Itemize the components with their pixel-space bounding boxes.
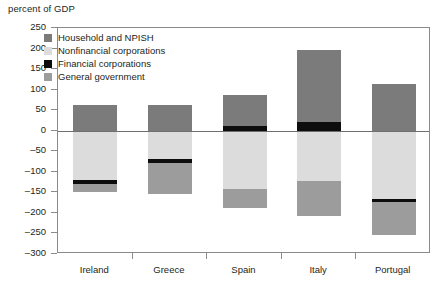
y-axis-tick-label: 100 — [30, 82, 46, 96]
bar-segment[interactable] — [297, 122, 341, 131]
y-axis-tick-label: –250 — [25, 225, 46, 239]
bar-group[interactable] — [223, 28, 267, 252]
bar-segment[interactable] — [223, 189, 267, 207]
zero-line — [58, 131, 429, 132]
x-axis-tick-mark — [206, 253, 207, 259]
bar-segment[interactable] — [73, 184, 117, 192]
x-axis-tick-mark — [132, 253, 133, 259]
x-axis-label-spain: Spain — [231, 264, 255, 275]
x-axis: IrelandGreeceSpainItalyPortugal — [57, 253, 430, 287]
legend-item[interactable]: Financial corporations — [44, 57, 165, 70]
y-axis-tick-label: –300 — [25, 246, 46, 260]
bar-segment[interactable] — [148, 163, 192, 194]
legend-item-label: Nonfinancial corporations — [58, 44, 165, 57]
bar-group[interactable] — [372, 28, 416, 252]
legend-item-label: Financial corporations — [58, 57, 151, 70]
y-axis-tick-label: –200 — [25, 205, 46, 219]
legend-item-label: General government — [58, 70, 145, 83]
bar-segment[interactable] — [297, 131, 341, 182]
bar-segment[interactable] — [73, 105, 117, 131]
x-axis-label-greece: Greece — [153, 264, 184, 275]
legend-item[interactable]: Nonfinancial corporations — [44, 44, 165, 57]
chart-root: percent of GDP 250200150100500–50–100–15… — [0, 0, 438, 288]
legend-swatch-icon — [44, 47, 52, 55]
y-axis-tick-label: –100 — [25, 164, 46, 178]
legend-item-label: Household and NPISH — [58, 31, 154, 44]
legend-swatch-icon — [44, 60, 52, 68]
bar-segment[interactable] — [73, 131, 117, 180]
bar-segment[interactable] — [148, 131, 192, 160]
x-axis-tick-mark — [281, 253, 282, 259]
bar-segment[interactable] — [297, 50, 341, 122]
x-axis-label-ireland: Ireland — [80, 264, 109, 275]
bar-group[interactable] — [297, 28, 341, 252]
chart-legend: Household and NPISHNonfinancial corporat… — [44, 31, 165, 83]
y-axis-title: percent of GDP — [8, 3, 75, 14]
y-axis-tick-label: –50 — [30, 143, 46, 157]
legend-swatch-icon — [44, 73, 52, 81]
bar-segment[interactable] — [148, 105, 192, 131]
bar-segment[interactable] — [372, 202, 416, 235]
legend-item[interactable]: Household and NPISH — [44, 31, 165, 44]
bar-segment[interactable] — [372, 84, 416, 130]
legend-item[interactable]: General government — [44, 70, 165, 83]
y-axis-tick-label: 0 — [41, 123, 46, 137]
bar-segment[interactable] — [297, 181, 341, 216]
bar-segment[interactable] — [223, 95, 267, 126]
y-axis-tick-label: 50 — [35, 102, 46, 116]
x-axis-label-italy: Italy — [309, 264, 326, 275]
x-axis-label-portugal: Portugal — [375, 264, 410, 275]
legend-swatch-icon — [44, 34, 52, 42]
bar-segment[interactable] — [223, 131, 267, 190]
y-axis-tick-label: –150 — [25, 184, 46, 198]
bar-segment[interactable] — [372, 131, 416, 199]
x-axis-tick-mark — [355, 253, 356, 259]
